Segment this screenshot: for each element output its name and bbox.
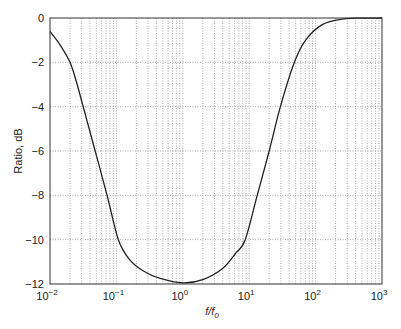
chart: 0−2−4−6−8−10−12 10−210−1100101102103 Rat… bbox=[0, 0, 401, 329]
y-tick-label: −6 bbox=[31, 145, 44, 157]
x-tick-label: 10−2 bbox=[36, 288, 58, 302]
y-tick-label: −2 bbox=[31, 56, 44, 68]
x-tick-label: 10−1 bbox=[103, 288, 125, 302]
x-axis-ticks: 10−210−1100101102103 bbox=[36, 288, 388, 302]
y-tick-label: −10 bbox=[25, 234, 44, 246]
x-tick-label: 102 bbox=[304, 288, 321, 302]
y-tick-label: 0 bbox=[38, 12, 44, 24]
y-tick-label: −12 bbox=[25, 278, 44, 290]
y-axis-label: Ratio, dB bbox=[12, 128, 24, 173]
y-tick-label: −4 bbox=[31, 101, 44, 113]
plot-frame bbox=[50, 18, 382, 284]
x-tick-label: 103 bbox=[371, 288, 388, 302]
ratio-curve bbox=[50, 18, 382, 283]
x-axis-label: f/f0 bbox=[205, 305, 219, 320]
y-tick-label: −8 bbox=[31, 189, 44, 201]
grid-lines bbox=[50, 18, 382, 284]
x-tick-label: 101 bbox=[238, 288, 255, 302]
y-axis-ticks: 0−2−4−6−8−10−12 bbox=[25, 12, 44, 290]
x-tick-label: 100 bbox=[171, 288, 188, 302]
